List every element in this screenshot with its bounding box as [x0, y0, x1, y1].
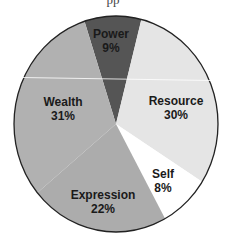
slice-name: Expression — [71, 188, 136, 202]
slice-name: Power — [93, 27, 129, 41]
slice-percent: 31% — [43, 109, 82, 123]
slice-percent: 8% — [152, 181, 174, 195]
slice-label-expression: Expression 22% — [71, 188, 136, 216]
slice-label-wealth: Wealth 31% — [43, 95, 82, 123]
slice-label-self: Self 8% — [152, 167, 174, 195]
slice-name: Resource — [149, 94, 204, 108]
slice-label-power: Power 9% — [93, 27, 129, 55]
slice-label-resource: Resource 30% — [149, 94, 204, 122]
slice-percent: 9% — [93, 41, 129, 55]
slice-name: Self — [152, 167, 174, 181]
slice-percent: 22% — [71, 202, 136, 216]
slice-percent: 30% — [149, 108, 204, 122]
slice-name: Wealth — [43, 95, 82, 109]
